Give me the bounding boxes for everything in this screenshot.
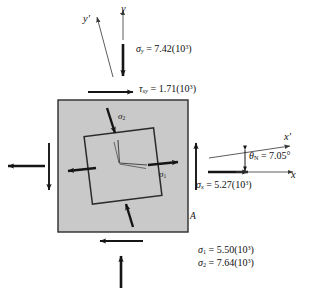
- point-a-label: A: [190, 212, 196, 222]
- tau-xy-label: τxy = 1.71(103): [139, 84, 196, 95]
- axis-label-y-prime: y′: [83, 14, 90, 25]
- y-prime-axis-arrow: [97, 17, 113, 77]
- sigma-2-element-label: σ2: [118, 112, 125, 122]
- sigma-2-result-label: σ2 = 7.64(103): [198, 258, 254, 269]
- theta-label: θN = 7.05°: [249, 151, 291, 162]
- figure-canvas: y y′ x x′ σy = 7.42(103) τxy = 1.71(103)…: [0, 0, 310, 293]
- sigma-1-element-label: σ1: [159, 170, 166, 180]
- sigma-y-label: σy = 7.42(103): [136, 44, 192, 55]
- sigma-1-result-label: σ1 = 5.50(103): [198, 245, 254, 256]
- axis-label-y: y: [121, 4, 126, 15]
- sigma-x-label: σx = 5.27(103): [196, 180, 252, 191]
- axis-label-x: x: [291, 170, 296, 181]
- axis-label-x-prime: x′: [284, 132, 291, 143]
